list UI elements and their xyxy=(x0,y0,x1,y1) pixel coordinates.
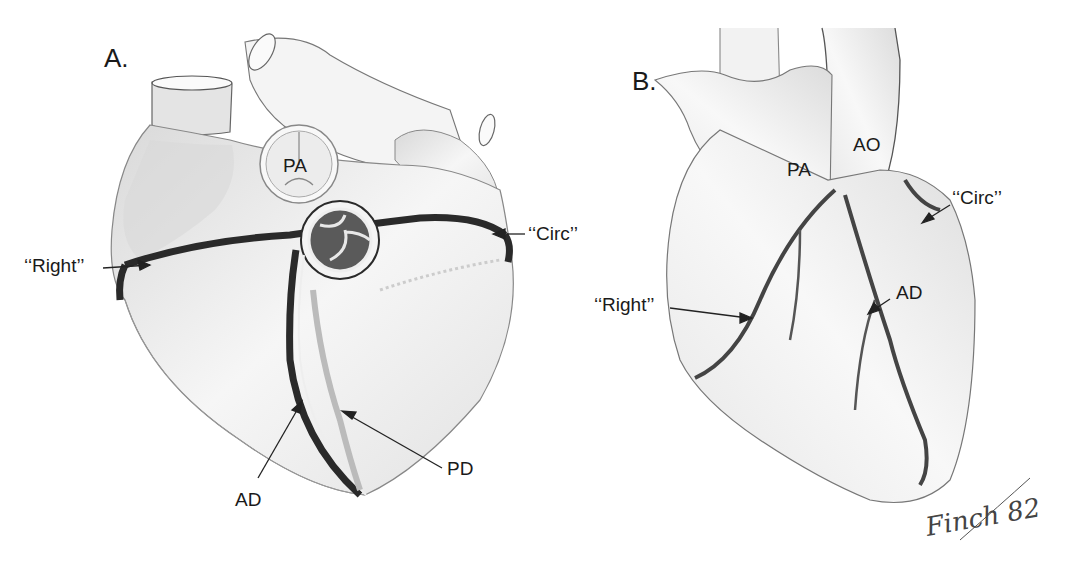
panel-a-label: A. xyxy=(104,45,129,71)
label-b-circ: ‘‘Circ’’ xyxy=(952,188,1002,207)
label-b-pa: PA xyxy=(787,160,811,179)
label-b-ao: AO xyxy=(853,135,880,154)
label-a-ad: AD xyxy=(235,490,261,509)
label-b-ad: AD xyxy=(896,283,922,302)
label-a-pd: PD xyxy=(447,459,473,478)
label-a-circ: ‘‘Circ’’ xyxy=(528,224,578,243)
label-a-right: ‘‘Right’’ xyxy=(24,256,85,275)
heart-b-drawing xyxy=(655,28,975,503)
heart-a-drawing xyxy=(111,30,513,495)
panel-b-label: B. xyxy=(632,68,657,94)
label-a-pa: PA xyxy=(283,156,307,175)
label-b-right: ‘‘Right’’ xyxy=(594,295,655,314)
